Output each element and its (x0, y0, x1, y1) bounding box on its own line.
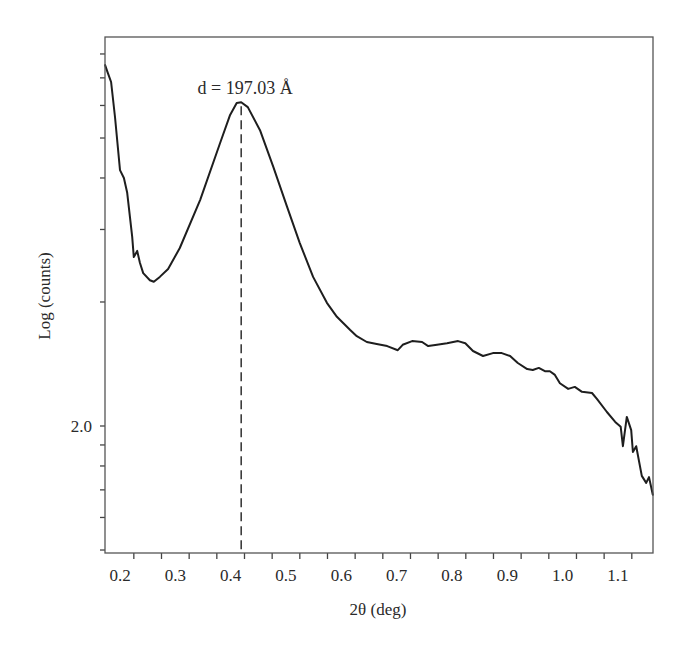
peak-annotation: d = 197.03 Å (198, 78, 293, 98)
x-tick-label: 0.3 (165, 566, 186, 585)
x-tick-label: 1.0 (552, 566, 573, 585)
x-tick-label: 0.9 (497, 566, 518, 585)
x-tick-label: 1.1 (607, 566, 628, 585)
y-axis-ticks (100, 54, 105, 550)
plot-frame (105, 37, 653, 553)
x-axis-tick-labels: 0.20.30.40.50.60.70.80.91.01.1 (109, 566, 628, 585)
data-line (105, 65, 653, 495)
x-tick-label: 0.5 (275, 566, 296, 585)
y-axis-title: Log (counts) (35, 252, 54, 339)
x-tick-label: 0.8 (441, 566, 462, 585)
x-tick-label: 0.6 (331, 566, 352, 585)
xrd-chart: 0.20.30.40.50.60.70.80.91.01.1 2.0 d = 1… (0, 0, 689, 649)
x-axis-ticks (134, 553, 632, 559)
x-tick-label: 0.7 (386, 566, 408, 585)
x-tick-label: 0.2 (109, 566, 130, 585)
x-axis-title: 2θ (deg) (350, 600, 407, 619)
y-tick-label: 2.0 (71, 417, 92, 436)
x-tick-label: 0.4 (220, 566, 242, 585)
y-axis-tick-labels: 2.0 (71, 417, 92, 436)
